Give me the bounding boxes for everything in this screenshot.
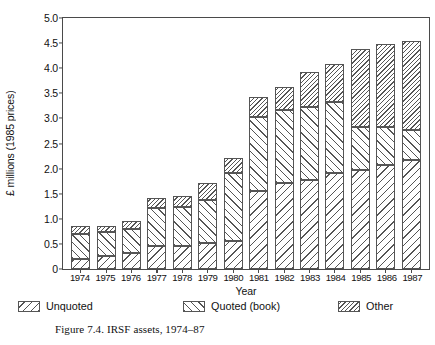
x-axis-title: Year bbox=[62, 285, 430, 297]
bar-segment-quoted-book bbox=[147, 208, 166, 246]
stacked-bar bbox=[402, 41, 421, 269]
bar-segment-unquoted bbox=[173, 246, 192, 269]
x-axis-ticks: 1974197519761977197819791980198119821983… bbox=[62, 272, 430, 283]
bar-segment-other bbox=[300, 72, 319, 107]
x-tick-label: 1980 bbox=[220, 272, 246, 283]
x-tick-label: 1974 bbox=[67, 272, 93, 283]
y-tick-label: 5.0 bbox=[44, 12, 58, 24]
bar-segment-unquoted bbox=[198, 243, 217, 269]
x-tick-label: 1986 bbox=[374, 272, 400, 283]
bar-segment-other bbox=[147, 198, 166, 208]
y-tick-label: 2.5 bbox=[44, 138, 58, 150]
bar-group bbox=[63, 18, 429, 269]
bar-slot bbox=[246, 18, 271, 269]
legend-label: Quoted (book) bbox=[211, 300, 280, 312]
stacked-bar bbox=[351, 49, 370, 269]
bar-slot bbox=[398, 18, 423, 269]
x-tick-label: 1976 bbox=[118, 272, 144, 283]
bar-segment-other bbox=[402, 41, 421, 130]
legend-swatch-quoted-book bbox=[183, 301, 205, 312]
x-tick-label: 1985 bbox=[348, 272, 374, 283]
bar-segment-other bbox=[376, 44, 395, 127]
bar-segment-unquoted bbox=[224, 241, 243, 269]
y-axis-title: £ millions (1985 prices) bbox=[2, 17, 18, 270]
bar-slot bbox=[348, 18, 373, 269]
bar-segment-other bbox=[249, 97, 268, 117]
bar-slot bbox=[221, 18, 246, 269]
bar-segment-quoted-book bbox=[198, 200, 217, 243]
y-tick-label: 1.0 bbox=[44, 213, 58, 225]
bar-segment-other bbox=[71, 226, 90, 234]
bar-segment-unquoted bbox=[300, 180, 319, 269]
bar-segment-other bbox=[351, 49, 370, 127]
bar-slot bbox=[170, 18, 195, 269]
bar-segment-quoted-book bbox=[71, 234, 90, 259]
bar-segment-unquoted bbox=[97, 256, 116, 269]
bar-segment-quoted-book bbox=[122, 229, 141, 253]
y-tick-label: 1.5 bbox=[44, 188, 58, 200]
x-tick-label: 1981 bbox=[246, 272, 272, 283]
bar-slot bbox=[297, 18, 322, 269]
bar-segment-quoted-book bbox=[402, 130, 421, 160]
legend-swatch-other bbox=[338, 301, 360, 312]
bar-segment-quoted-book bbox=[351, 127, 370, 170]
plot-area: 00.51.01.52.02.53.03.54.04.55.0 bbox=[62, 17, 430, 270]
bar-segment-unquoted bbox=[351, 170, 370, 269]
bar-segment-other bbox=[325, 64, 344, 102]
bar-segment-quoted-book bbox=[376, 127, 395, 165]
bar-segment-quoted-book bbox=[173, 207, 192, 246]
stacked-bar bbox=[376, 44, 395, 269]
legend-item: Quoted (book) bbox=[183, 300, 338, 312]
bar-slot bbox=[322, 18, 347, 269]
y-tick-label: 3.0 bbox=[44, 112, 58, 124]
bar-segment-other bbox=[173, 196, 192, 207]
stacked-bar bbox=[198, 183, 217, 269]
x-tick-label: 1987 bbox=[400, 272, 426, 283]
y-tick-label: 4.5 bbox=[44, 37, 58, 49]
stacked-bar bbox=[173, 196, 192, 269]
bar-segment-unquoted bbox=[376, 165, 395, 269]
legend-item: Unquoted bbox=[18, 300, 183, 312]
y-tick-label: 0 bbox=[52, 263, 58, 275]
bar-segment-unquoted bbox=[402, 160, 421, 269]
stacked-bar bbox=[147, 198, 166, 269]
bar-slot bbox=[271, 18, 296, 269]
bar-slot bbox=[93, 18, 118, 269]
legend-label: Unquoted bbox=[46, 300, 93, 312]
bar-segment-other bbox=[224, 158, 243, 173]
legend-swatch-unquoted bbox=[18, 301, 40, 312]
stacked-bar bbox=[325, 64, 344, 269]
stacked-bar bbox=[300, 72, 319, 269]
bar-segment-unquoted bbox=[147, 246, 166, 269]
bar-slot bbox=[373, 18, 398, 269]
legend: UnquotedQuoted (book)Other bbox=[18, 300, 418, 312]
bar-segment-quoted-book bbox=[224, 173, 243, 241]
bar-segment-other bbox=[275, 87, 294, 110]
bar-segment-quoted-book bbox=[249, 117, 268, 190]
x-tick-label: 1975 bbox=[93, 272, 119, 283]
legend-item: Other bbox=[338, 300, 393, 312]
stacked-bar bbox=[275, 87, 294, 269]
x-tick-label: 1979 bbox=[195, 272, 221, 283]
y-tick-label: 4.0 bbox=[44, 62, 58, 74]
bar-segment-other bbox=[198, 183, 217, 200]
figure-irsf-assets: £ millions (1985 prices) 00.51.01.52.02.… bbox=[0, 0, 435, 345]
x-tick-label: 1977 bbox=[144, 272, 170, 283]
y-tick-label: 0.5 bbox=[44, 238, 58, 250]
bar-slot bbox=[144, 18, 169, 269]
bar-segment-unquoted bbox=[122, 253, 141, 269]
bar-segment-quoted-book bbox=[97, 232, 116, 256]
bar-slot bbox=[195, 18, 220, 269]
stacked-bar bbox=[97, 226, 116, 269]
stacked-bar bbox=[224, 158, 243, 269]
stacked-bar bbox=[249, 97, 268, 269]
legend-label: Other bbox=[366, 300, 393, 312]
bar-segment-quoted-book bbox=[325, 102, 344, 173]
bar-slot bbox=[68, 18, 93, 269]
x-tick-label: 1984 bbox=[323, 272, 349, 283]
bar-segment-unquoted bbox=[275, 183, 294, 269]
bar-segment-unquoted bbox=[325, 173, 344, 269]
stacked-bar bbox=[122, 221, 141, 269]
bar-segment-unquoted bbox=[249, 191, 268, 269]
figure-caption: Figure 7.4. IRSF assets, 1974–87 bbox=[55, 323, 205, 335]
